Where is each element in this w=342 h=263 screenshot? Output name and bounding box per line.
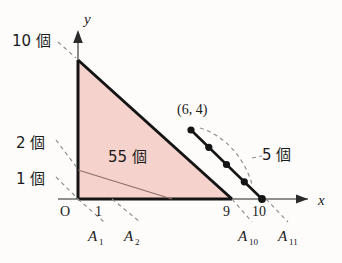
lattice-dot-1 <box>187 126 194 133</box>
label-inside-count: 55 個 <box>108 148 147 166</box>
lattice-dot-5 <box>258 195 266 203</box>
lattice-triangle-diagram: x y 10 個 <box>0 0 342 263</box>
x-axis-label: x <box>317 192 325 208</box>
segment-label-a10-base: A <box>237 228 248 244</box>
label-ten-count: 10 個 <box>12 32 51 50</box>
lattice-dot-4 <box>241 178 248 185</box>
x-tick-9: 9 <box>223 204 230 219</box>
label-point-coordinates: (6, 4) <box>177 102 208 118</box>
lattice-dot-3 <box>223 161 230 168</box>
label-five-count: 5 個 <box>262 146 291 164</box>
x-tick-1: 1 <box>95 204 102 219</box>
x-tick-10: 10 <box>252 204 266 219</box>
label-origin: O <box>60 204 70 219</box>
segment-label-a1-base: A <box>87 228 98 244</box>
figure-canvas: x y 10 個 <box>0 0 342 263</box>
segment-label-a10-sub: 10 <box>249 237 259 247</box>
y-axis-label: y <box>82 11 91 27</box>
segment-label-a11-sub: 11 <box>289 237 298 247</box>
segment-label-a2-sub: 2 <box>135 237 140 247</box>
figure-background <box>0 0 342 263</box>
segment-label-a1-sub: 1 <box>99 237 104 247</box>
segment-label-a2-base: A <box>123 228 134 244</box>
label-two-count: 2 個 <box>16 134 45 152</box>
lattice-dot-2 <box>205 144 212 151</box>
segment-label-a11-base: A <box>277 228 288 244</box>
label-one-count: 1 個 <box>16 170 45 188</box>
